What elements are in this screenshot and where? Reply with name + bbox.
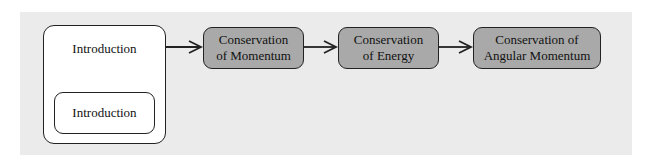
edge-arrows	[0, 0, 653, 165]
